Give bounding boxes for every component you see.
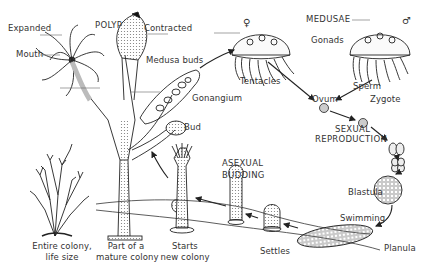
entire-colony-illustration — [30, 144, 89, 236]
caption-entire-colony-line2: life size — [32, 252, 92, 262]
ovum-cell — [320, 104, 329, 113]
settled-planula — [263, 205, 281, 232]
label-contracted: Contracted — [144, 23, 192, 33]
arrow-gonangium-to-medusa — [200, 50, 234, 68]
bud-illustration — [132, 121, 186, 150]
label-expanded: Expanded — [8, 23, 51, 33]
obelia-life-cycle-diagram: POLYP MEDUSAE SEXUAL REPRODUCTION ASEXUA… — [0, 0, 421, 262]
leader-lines — [40, 20, 370, 92]
arrow-settles-to-budding — [246, 214, 258, 218]
caption-entire-colony-line1: Entire colony, — [32, 241, 92, 251]
label-planula: Planula — [384, 243, 416, 253]
label-gonangium: Gonangium — [192, 93, 242, 103]
female-symbol: ♀ — [243, 18, 250, 28]
caption-mature-colony-line1: Part of a — [96, 241, 156, 251]
heading-sexual: SEXUAL — [335, 124, 370, 134]
mature-colony-illustration — [80, 55, 175, 240]
cleavage-stages — [389, 143, 405, 172]
label-swimming: Swimming — [340, 213, 385, 223]
label-blastula: Blastula — [348, 187, 383, 197]
heading-polyp: POLYP — [95, 20, 122, 30]
caption-new-colony-line2: new colony — [160, 252, 210, 262]
label-settles: Settles — [260, 246, 290, 256]
heading-asexual: ASEXUAL — [222, 158, 263, 168]
heading-budding: BUDDING — [222, 170, 265, 180]
gonangium-illustration — [140, 70, 200, 124]
arrow-new-colony-to-mature — [152, 152, 168, 178]
arrow-budding-to-new-colony — [196, 198, 226, 206]
caption-mature-colony-line2: mature colony — [96, 252, 156, 262]
label-gonads: Gonads — [311, 35, 344, 45]
arrow-planula-to-settles — [284, 224, 298, 228]
male-medusa — [350, 33, 410, 86]
male-symbol: ♂ — [402, 16, 411, 26]
label-sperm: Sperm — [353, 81, 381, 91]
arrow-ovum-to-zygote — [330, 111, 355, 120]
label-mouth: Mouth — [16, 49, 43, 59]
heading-reproduction: REPRODUCTION — [315, 134, 387, 144]
label-bud: Bud — [184, 122, 201, 132]
label-medusa-buds: Medusa buds — [146, 55, 203, 65]
label-tentacles: Tentacles — [240, 76, 281, 86]
planula-illustration — [296, 221, 374, 251]
expanded-polyp — [36, 25, 104, 100]
heading-medusae: MEDUSAE — [306, 14, 350, 24]
label-zygote: Zygote — [370, 94, 401, 104]
caption-new-colony-line1: Starts — [160, 241, 210, 251]
label-ovum: Ovum — [312, 94, 338, 104]
arrow-to-blastula — [396, 173, 398, 174]
new-colony-polyp — [170, 143, 194, 233]
